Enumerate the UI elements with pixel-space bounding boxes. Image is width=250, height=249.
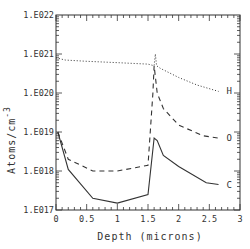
x-tick-label: 3	[237, 214, 242, 224]
series-labels: HOC	[227, 86, 232, 189]
x-tick-labels: 00.511.522.53	[53, 214, 242, 224]
y-tick-labels: 1.E0171.E0181.E0191.E0201.E0211.E022	[23, 10, 54, 215]
svg-text:Atoms/cm-3: Atoms/cm-3	[3, 106, 17, 174]
y-tick-label: 1.E021	[23, 49, 54, 59]
y-axis-title-text: Atoms/cm	[6, 118, 17, 174]
x-axis-title: Depth (microns)	[97, 231, 202, 242]
y-tick-label: 1.E020	[23, 88, 54, 98]
plot-frame	[56, 15, 240, 210]
series-label-o: O	[227, 133, 232, 143]
y-tick-label: 1.E017	[23, 205, 54, 215]
y-tick-label: 1.E019	[23, 127, 54, 137]
y-axis-title-sup: -3	[3, 106, 12, 118]
depth-profile-chart: 1.E0171.E0181.E0191.E0201.E0211.E022 00.…	[0, 0, 250, 249]
x-tick-label: 0	[53, 214, 58, 224]
data-series	[56, 54, 219, 203]
x-tick-label: 2.5	[202, 214, 217, 224]
y-axis-title: Atoms/cm-3	[3, 106, 17, 174]
series-o-line	[58, 66, 219, 171]
x-tick-label: 1.5	[140, 214, 155, 224]
series-label-c: C	[227, 180, 232, 190]
y-tick-label: 1.E018	[23, 166, 54, 176]
series-h-line	[56, 54, 219, 91]
series-label-h: H	[227, 86, 232, 96]
x-tick-label: 1	[115, 214, 120, 224]
axis-ticks	[56, 15, 240, 210]
y-tick-label: 1.E022	[23, 10, 54, 20]
x-tick-label: 0.5	[79, 214, 94, 224]
x-tick-label: 2	[176, 214, 181, 224]
